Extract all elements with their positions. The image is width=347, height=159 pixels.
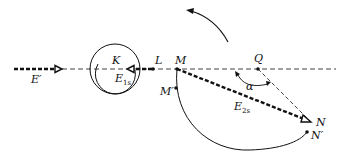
label-n: N <box>316 117 326 128</box>
q-to-n-line <box>258 69 311 122</box>
label-e1s: E1s <box>115 73 131 87</box>
label-n-prime: N′ <box>311 130 323 141</box>
alpha-arrowhead-left <box>235 71 240 77</box>
label-e-prime: E′ <box>31 74 42 85</box>
label-m: M <box>175 55 186 66</box>
label-e2s-main: E <box>234 100 242 113</box>
vector-diagram <box>0 0 347 159</box>
label-l: L <box>155 55 162 66</box>
label-m-prime: M′ <box>160 86 174 97</box>
rotation-arrow <box>191 11 228 42</box>
label-e1s-sub: 1s <box>123 79 131 87</box>
label-e2s: E2s <box>234 101 250 115</box>
label-k: K <box>112 55 120 66</box>
e-prime-arrowhead <box>55 66 62 73</box>
label-e2s-sub: 2s <box>242 107 250 115</box>
rotation-arrowhead <box>186 8 194 14</box>
label-alpha: α <box>246 81 253 92</box>
point-L <box>151 67 155 71</box>
label-e1s-main: E <box>115 72 123 85</box>
label-q: Q <box>254 53 263 64</box>
alpha-arrowhead-right <box>266 81 271 86</box>
e1s-arrowhead <box>127 66 134 73</box>
